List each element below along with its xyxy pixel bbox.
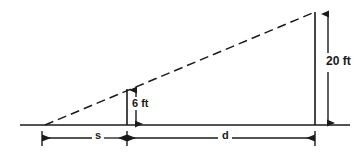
diagram-canvas: 20 ft 6 ft s d xyxy=(0,0,358,155)
dimension-label-d: d xyxy=(219,130,232,141)
sight-line-dashed xyxy=(45,12,315,125)
dimension-label-s: s xyxy=(92,130,104,141)
dimension-label-20ft: 20 ft xyxy=(325,54,352,68)
dimension-label-6ft: 6 ft xyxy=(131,97,150,110)
diagram-svg xyxy=(0,0,358,155)
